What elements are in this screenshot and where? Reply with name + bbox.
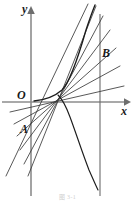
point-a-label: A xyxy=(19,122,28,136)
origin-label: O xyxy=(17,88,26,102)
tangent-line-5 xyxy=(24,16,103,164)
figure-caption: 图 3-1 xyxy=(0,192,135,201)
figure-canvas: y x O A B xyxy=(0,0,135,203)
tangent-line-3 xyxy=(17,48,116,136)
math-figure: y x O A B 图 3-1 xyxy=(0,0,135,203)
y-axis-arrowhead-icon xyxy=(27,6,35,14)
point-b-label: B xyxy=(101,46,110,60)
x-axis-label: x xyxy=(120,104,127,118)
descending-curve xyxy=(58,95,98,190)
tangent-line-2 xyxy=(14,66,120,124)
tangent-line-4 xyxy=(20,30,110,150)
y-axis-label: y xyxy=(20,2,28,16)
